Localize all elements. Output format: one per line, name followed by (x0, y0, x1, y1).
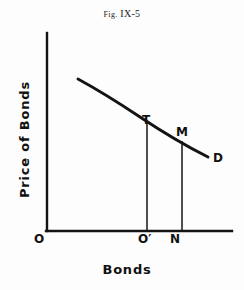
x-tick-label-o-prime: O′ (138, 232, 151, 246)
point-label-m: M (176, 125, 188, 139)
point-label-t: T (142, 113, 150, 127)
plot-area (0, 0, 244, 290)
y-axis-label: Price of Bonds (17, 75, 32, 205)
origin-label: O (34, 232, 44, 246)
x-axis-label: Bonds (72, 262, 182, 277)
figure-container: Fig. IX-5 Price of Bonds Bonds T M D O O… (0, 0, 244, 290)
x-tick-label-n: N (170, 232, 180, 246)
curve-label-d: D (213, 151, 223, 165)
